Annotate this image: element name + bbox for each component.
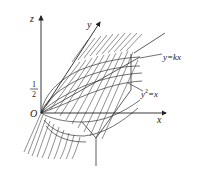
parabolic-sections	[41, 57, 142, 142]
z-half-tick-label: 1 2	[30, 80, 38, 99]
origin-label: O	[30, 108, 37, 119]
cylinder-label-rest: =x	[148, 89, 158, 99]
x-axis-label: x	[156, 114, 162, 125]
half-numerator: 1	[32, 80, 36, 89]
plane-label: y=kx	[162, 52, 181, 62]
cylinder-label: y2=x	[140, 88, 158, 99]
diagram-figure: z y x O 1 2 y=kx y2=x	[0, 0, 197, 172]
plane-leader-line	[140, 54, 162, 58]
y-axis-label: y	[86, 19, 92, 30]
z-axis-label: z	[29, 13, 34, 24]
half-denominator: 2	[32, 90, 36, 99]
